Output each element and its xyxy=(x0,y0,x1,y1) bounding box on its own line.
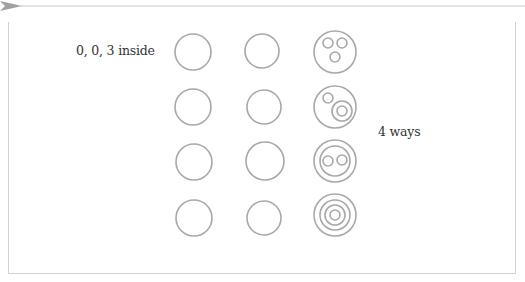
nested-r4-concentric xyxy=(314,194,356,236)
nested-r2-one-plus-pair xyxy=(314,86,356,128)
circle-r2-c2 xyxy=(247,90,281,124)
circle-r4-c1 xyxy=(176,200,212,236)
circle-r1-c1 xyxy=(175,34,211,70)
circle-r3-c1 xyxy=(176,144,212,180)
column-1-plain-circles xyxy=(175,34,212,236)
circle-r3-c2 xyxy=(246,142,284,180)
nested-r3-two-inside-one xyxy=(314,140,356,182)
circle-grid xyxy=(0,0,525,282)
nested-r1-three-separate xyxy=(314,31,356,73)
column-2-plain-circles xyxy=(245,34,284,235)
circle-r4-c2 xyxy=(247,201,281,235)
circle-r2-c1 xyxy=(175,89,211,125)
circle-r1-c2 xyxy=(245,34,279,68)
